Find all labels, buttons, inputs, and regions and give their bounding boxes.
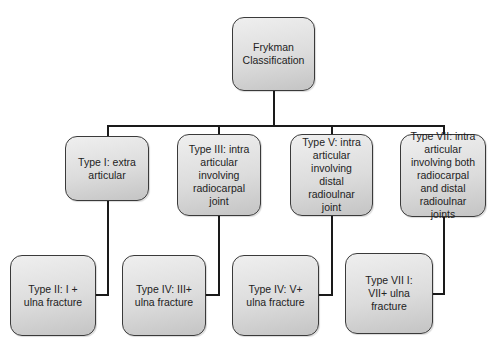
node-label: Type II: I + ulna fracture [24, 283, 82, 309]
node-label: Frykman Classification [243, 41, 305, 67]
connector-type4b-elbow [318, 294, 333, 296]
node-type-8: Type VII I: VII+ ulna fracture [345, 253, 433, 334]
connector-horizontal-bus [107, 125, 444, 127]
node-type-4: Type IV: III+ ulna fracture [122, 255, 206, 336]
node-label: Type VII I: VII+ ulna fracture [365, 274, 412, 313]
connector-type1-down [107, 200, 109, 295]
node-type-3: Type III: intra articular involving radi… [177, 134, 261, 216]
connector-root-down [273, 90, 275, 126]
node-label: Type III: intra articular involving radi… [189, 143, 250, 208]
node-type-5: Type V: intra articular involving distal… [290, 134, 373, 216]
connector-type2-elbow [95, 294, 109, 296]
connector-type4-elbow [205, 294, 220, 296]
node-type-7: Type VII: intra articular involving both… [400, 134, 486, 217]
connector-type3-down [218, 215, 220, 295]
connector-type5-down [331, 215, 333, 295]
connector-type8-elbow [432, 293, 445, 295]
node-label: Type IV: III+ ulna fracture [135, 283, 193, 309]
connector-type7-down [443, 216, 445, 294]
node-type-1: Type I: extra articular [65, 136, 149, 201]
node-label: Type VII: intra articular involving both… [411, 130, 476, 221]
node-type-2: Type II: I + ulna fracture [10, 255, 96, 336]
diagram-canvas: Frykman Classification Type I: extra art… [0, 0, 495, 348]
node-type-4b: Type IV: V+ ulna fracture [232, 255, 319, 336]
node-root-frykman-classification: Frykman Classification [232, 17, 315, 91]
node-label: Type V: intra articular involving distal… [302, 136, 361, 214]
node-label: Type I: extra articular [78, 156, 136, 182]
node-label: Type IV: V+ ulna fracture [246, 283, 304, 309]
